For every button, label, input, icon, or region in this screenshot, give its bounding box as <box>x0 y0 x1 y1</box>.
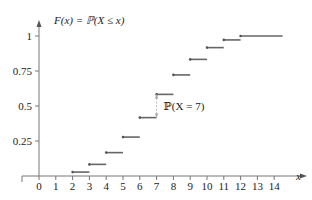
y-tick-label: 0.75 <box>13 65 33 77</box>
x-tick-label: 6 <box>137 180 143 192</box>
step-closed-dot <box>122 136 125 139</box>
step-closed-dot <box>105 151 108 154</box>
x-axis-label: x <box>295 170 301 182</box>
step-closed-dot <box>139 116 142 119</box>
step-closed-dot <box>223 39 226 42</box>
step-closed-dot <box>88 163 91 166</box>
x-tick-label: 7 <box>154 180 160 192</box>
step-closed-dot <box>172 74 175 77</box>
step-closed-dot <box>189 58 192 61</box>
step-closed-dot <box>239 35 242 38</box>
step-closed-dot <box>206 46 209 49</box>
annotation-label: ℙ(X = 7) <box>164 100 205 113</box>
x-tick-label: 13 <box>252 180 264 192</box>
y-tick-label: 0.5 <box>18 100 32 112</box>
y-tick-label: 0.25 <box>13 135 33 147</box>
chart-title: F(x) = ℙ(X ≤ x) <box>53 14 125 27</box>
x-tick-label: 10 <box>202 180 214 192</box>
annotation: ℙ(X = 7) <box>155 94 205 117</box>
x-tick-label: 8 <box>171 180 177 192</box>
x-tick-label: 11 <box>219 180 230 192</box>
x-tick-label: 14 <box>269 180 281 192</box>
step-closed-dot <box>71 171 74 174</box>
x-axis-arrow-icon <box>300 174 307 179</box>
y-axis-arrow-icon <box>37 20 42 27</box>
cdf-chart: 012345678910111213140.250.50.751 ℙ(X = 7… <box>0 0 312 200</box>
x-tick-label: 2 <box>70 180 76 192</box>
x-tick-label: 0 <box>36 180 42 192</box>
x-tick-label: 9 <box>187 180 193 192</box>
x-tick-label: 3 <box>87 180 93 192</box>
x-tick-label: 12 <box>235 180 246 192</box>
axes: 012345678910111213140.250.50.751 <box>13 20 307 192</box>
x-tick-label: 5 <box>120 180 126 192</box>
y-tick-label: 1 <box>27 30 33 42</box>
x-tick-label: 4 <box>103 180 109 192</box>
x-tick-label: 1 <box>53 180 59 192</box>
